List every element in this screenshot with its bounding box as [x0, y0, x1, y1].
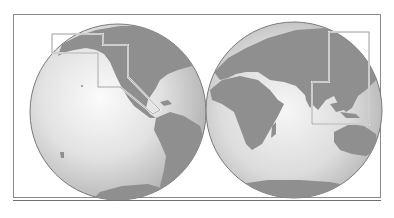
- eastern-hemisphere-globe: [206, 22, 382, 200]
- world-map: [0, 0, 394, 218]
- western-hemisphere-globe: [30, 20, 206, 202]
